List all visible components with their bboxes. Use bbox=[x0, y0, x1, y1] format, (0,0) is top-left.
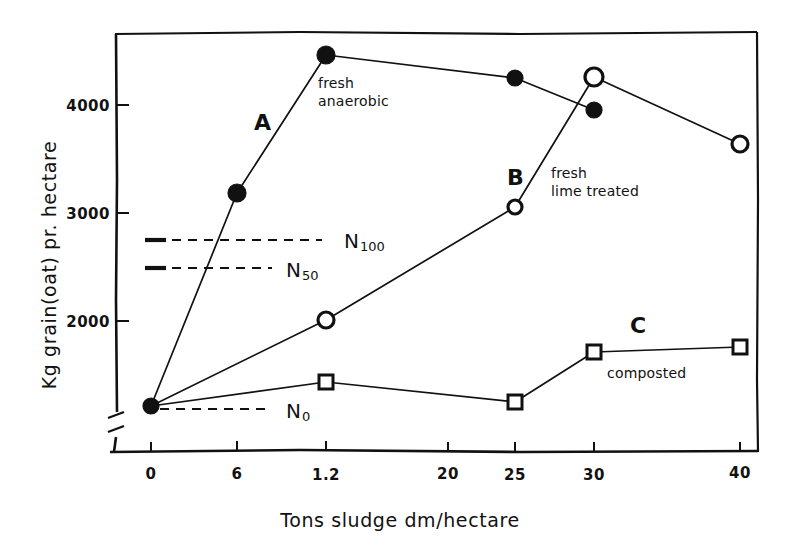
n50-label: N bbox=[286, 258, 301, 282]
n100-label: N bbox=[344, 229, 359, 253]
series-c-point-25 bbox=[508, 395, 522, 409]
y-tick-label-2000: 2000 bbox=[66, 313, 110, 331]
series-c-letter: C bbox=[630, 313, 646, 338]
n50-label-sub: 50 bbox=[302, 268, 319, 283]
series-a-point-6 bbox=[228, 184, 246, 202]
series-c-point-30 bbox=[587, 345, 601, 359]
n0-label-sub: 0 bbox=[302, 409, 310, 424]
series-b-note-line1: fresh bbox=[551, 165, 587, 181]
series-a-point-25 bbox=[507, 70, 523, 86]
y-tick-label-4000: 4000 bbox=[66, 97, 110, 115]
n100-label-sub: 100 bbox=[360, 239, 385, 254]
n0-label: N bbox=[286, 399, 301, 423]
series-a-note-line2: anaerobic bbox=[318, 93, 389, 109]
x-tick-label-20: 20 bbox=[437, 465, 459, 483]
series-b-letter: B bbox=[507, 165, 524, 190]
frame-top bbox=[115, 32, 757, 34]
series-c-point-12 bbox=[319, 375, 333, 389]
x-tick-label-40: 40 bbox=[729, 464, 751, 482]
series-b-point-12 bbox=[318, 312, 334, 328]
x-tick-label-25: 25 bbox=[504, 466, 526, 484]
series-a-point-30 bbox=[586, 102, 602, 118]
y-axis-lower-stub bbox=[114, 437, 116, 452]
frame-left-y-axis bbox=[116, 34, 117, 412]
y-axis-break-icon bbox=[108, 412, 124, 432]
x-axis-ticks: 0 6 1.2 20 25 30 40 bbox=[146, 441, 751, 484]
x-tick-label-0: 0 bbox=[146, 465, 157, 483]
frame-bottom-x-axis bbox=[110, 450, 758, 452]
x-axis-title: Tons sludge dm/hectare bbox=[279, 509, 520, 531]
series-b-line bbox=[151, 77, 740, 406]
series-c-note: composted bbox=[607, 365, 686, 381]
x-tick-label-6: 6 bbox=[232, 465, 243, 483]
series-c-point-40 bbox=[733, 340, 747, 354]
x-tick-label-30: 30 bbox=[583, 466, 605, 484]
series-a-note-line1: fresh bbox=[318, 75, 354, 91]
x-tick-label-12: 1.2 bbox=[312, 466, 340, 484]
series-b-point-30 bbox=[585, 68, 603, 86]
series-b-note-line2: lime treated bbox=[551, 183, 639, 199]
series-b-fresh-lime-treated bbox=[151, 68, 748, 406]
frame-right bbox=[757, 32, 758, 452]
series-b-point-40 bbox=[732, 136, 748, 152]
y-tick-label-3000: 3000 bbox=[66, 205, 110, 223]
series-a-point-12 bbox=[317, 46, 335, 64]
series-b-point-25 bbox=[508, 200, 522, 214]
plot-frame bbox=[108, 32, 758, 452]
chart-figure: 4000 3000 2000 0 6 1.2 20 25 30 40 Tons … bbox=[0, 0, 798, 554]
chart-svg: 4000 3000 2000 0 6 1.2 20 25 30 40 Tons … bbox=[0, 0, 798, 554]
y-axis-title: Kg grain(oat) pr. hectare bbox=[38, 141, 60, 390]
reference-lines: N 100 N 50 N 0 bbox=[145, 229, 385, 424]
y-axis-ticks: 4000 3000 2000 bbox=[66, 97, 129, 331]
series-a-letter: A bbox=[254, 110, 271, 135]
